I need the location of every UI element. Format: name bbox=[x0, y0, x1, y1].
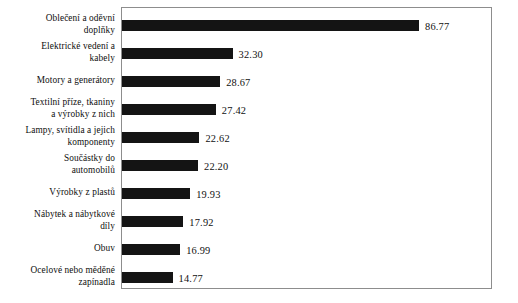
bar-row: 22.20 bbox=[122, 160, 491, 171]
category-label: Nábytek a nábytkovédíly bbox=[0, 209, 115, 232]
bar-value-label: 32.30 bbox=[239, 48, 263, 59]
bar-chart-figure: Oblečení a oděvnídoplňkyElektrické veden… bbox=[0, 0, 518, 303]
category-label: Součástky doautomobilů bbox=[0, 153, 115, 176]
category-label: Motory a generátory bbox=[0, 75, 115, 86]
bar-value-label: 16.99 bbox=[186, 244, 210, 255]
bar-value-label: 22.62 bbox=[205, 132, 229, 143]
category-label-line: Elektrické vedení a bbox=[0, 41, 115, 52]
category-label-line: Výrobky z plastů bbox=[0, 187, 115, 198]
category-label-line: Součástky do bbox=[0, 153, 115, 164]
category-label-line: Ocelové nebo měděné bbox=[0, 265, 115, 276]
bar bbox=[122, 244, 180, 255]
bar-row: 19.93 bbox=[122, 188, 491, 199]
bar bbox=[122, 216, 183, 227]
category-label-line: Oblečení a oděvní bbox=[0, 13, 115, 24]
bar bbox=[122, 20, 419, 31]
plot-area: 86.7732.3028.6727.4222.6222.2019.9317.92… bbox=[121, 7, 492, 289]
bar bbox=[122, 132, 199, 143]
bar-value-label: 27.42 bbox=[222, 104, 246, 115]
bar bbox=[122, 160, 198, 171]
category-label: Výrobky z plastů bbox=[0, 187, 115, 198]
chart-caption bbox=[121, 292, 492, 303]
bar bbox=[122, 76, 220, 87]
bar-row: 16.99 bbox=[122, 244, 491, 255]
bar bbox=[122, 188, 190, 199]
bar-value-label: 28.67 bbox=[226, 76, 250, 87]
category-label-line: doplňky bbox=[0, 25, 115, 36]
bar-row: 17.92 bbox=[122, 216, 491, 227]
bars-layer: 86.7732.3028.6727.4222.6222.2019.9317.92… bbox=[122, 8, 491, 288]
bar-value-label: 14.77 bbox=[179, 272, 203, 283]
category-label: Elektrické vedení akabely bbox=[0, 41, 115, 64]
category-label: Obuv bbox=[0, 243, 115, 254]
category-label-line: Motory a generátory bbox=[0, 75, 115, 86]
category-label-line: kabely bbox=[0, 53, 115, 64]
category-axis: Oblečení a oděvnídoplňkyElektrické veden… bbox=[0, 7, 119, 289]
bar-row: 14.77 bbox=[122, 272, 491, 283]
bar bbox=[122, 104, 216, 115]
bar-row: 28.67 bbox=[122, 76, 491, 87]
bar-row: 86.77 bbox=[122, 20, 491, 31]
category-label: Ocelové nebo měděnézapínadla bbox=[0, 265, 115, 288]
category-label-line: automobilů bbox=[0, 165, 115, 176]
bar bbox=[122, 48, 233, 59]
category-label: Oblečení a oděvnídoplňky bbox=[0, 13, 115, 36]
category-label-line: Nábytek a nábytkové bbox=[0, 209, 115, 220]
bar-value-label: 19.93 bbox=[196, 188, 220, 199]
bar-value-label: 86.77 bbox=[425, 20, 449, 31]
bar-value-label: 17.92 bbox=[189, 216, 213, 227]
bar-row: 27.42 bbox=[122, 104, 491, 115]
bar-value-label: 22.20 bbox=[204, 160, 228, 171]
category-label-line: komponenty bbox=[0, 137, 115, 148]
category-label-line: Lampy, svítidla a jejich bbox=[0, 125, 115, 136]
category-label-line: díly bbox=[0, 221, 115, 232]
category-label-line: Textilní příze, tkaniny bbox=[0, 97, 115, 108]
category-label-line: zapínadla bbox=[0, 277, 115, 288]
category-label: Textilní příze, tkaninya výrobky z nich bbox=[0, 97, 115, 120]
category-label-line: Obuv bbox=[0, 243, 115, 254]
bar bbox=[122, 272, 173, 283]
category-label: Lampy, svítidla a jejichkomponenty bbox=[0, 125, 115, 148]
bar-row: 32.30 bbox=[122, 48, 491, 59]
bar-row: 22.62 bbox=[122, 132, 491, 143]
category-label-line: a výrobky z nich bbox=[0, 109, 115, 120]
